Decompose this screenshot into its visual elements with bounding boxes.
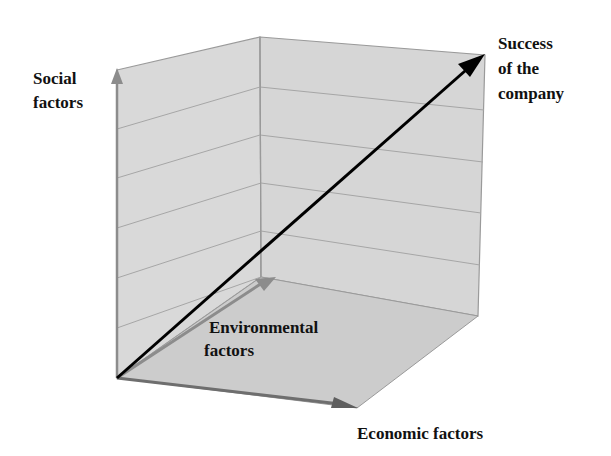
success-of-company-label: Success of the company — [498, 34, 565, 103]
social-factors-label: Social factors — [33, 69, 83, 112]
3d-axes-diagram: Social factors Success of the company En… — [0, 0, 611, 456]
economic-factors-label: Economic factors — [357, 424, 483, 443]
right-wall — [260, 37, 485, 316]
